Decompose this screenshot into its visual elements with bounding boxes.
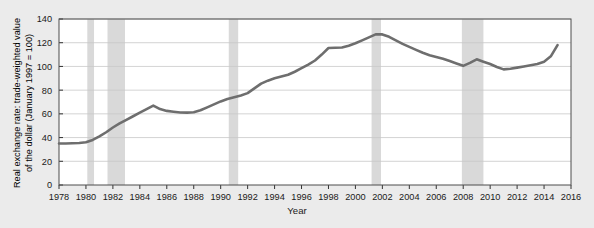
x-tick-label: 2008	[453, 192, 473, 202]
chart-figure: 020406080100120140 197819801982198419861…	[0, 0, 594, 228]
plot-area-background	[59, 19, 571, 185]
x-tick-label: 1994	[264, 192, 284, 202]
y-tick-label: 60	[42, 109, 52, 119]
y-tick-label: 20	[42, 157, 52, 167]
y-tick-label: 120	[37, 38, 52, 48]
x-tick-label: 2010	[480, 192, 500, 202]
x-tick-label: 2002	[372, 192, 392, 202]
x-tick-label: 1992	[237, 192, 257, 202]
recession-2007-2009	[462, 19, 484, 185]
x-tick-label: 1986	[157, 192, 177, 202]
y-tick-label: 100	[37, 62, 52, 72]
x-tick-label: 1988	[184, 192, 204, 202]
recession-1990-1991	[229, 19, 238, 185]
y-tick-label: 40	[42, 133, 52, 143]
x-tick-label: 2016	[561, 192, 581, 202]
x-tick-label: 1990	[210, 192, 230, 202]
x-tick-label: 1998	[318, 192, 338, 202]
x-tick-label: 2014	[534, 192, 554, 202]
y-tick-label: 140	[37, 14, 52, 24]
recession-1980	[87, 19, 94, 185]
y-axis-title-line2: of the dollar (January 1997 = 100)	[24, 34, 34, 172]
x-tick-label: 1980	[76, 192, 96, 202]
x-axis-title: Year	[287, 205, 307, 216]
x-tick-label: 1984	[130, 192, 150, 202]
y-tick-label: 0	[47, 180, 52, 190]
x-tick-label: 1978	[49, 192, 69, 202]
x-tick-label: 2004	[399, 192, 419, 202]
real-exchange-rate-line-chart: 020406080100120140 197819801982198419861…	[0, 0, 594, 228]
y-axis-title-line1: Real exchange rate: trade-weighted value	[12, 18, 22, 188]
x-tick-label: 1996	[291, 192, 311, 202]
x-tick-label: 2000	[345, 192, 365, 202]
x-tick-label: 2006	[426, 192, 446, 202]
y-tick-label: 80	[42, 86, 52, 96]
recession-1981-1982	[108, 19, 126, 185]
x-tick-label: 1982	[103, 192, 123, 202]
recession-2001	[372, 19, 381, 185]
x-tick-label: 2012	[507, 192, 527, 202]
